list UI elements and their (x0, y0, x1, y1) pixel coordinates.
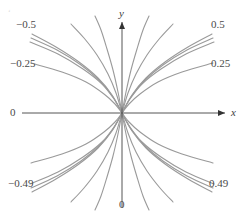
curve (122, 113, 212, 192)
curve (122, 63, 213, 113)
curve (122, 113, 213, 163)
label-top-left: −0.5 (16, 19, 36, 30)
label-top-right: 0.5 (211, 19, 225, 30)
label-mid-left: −0.25 (10, 58, 35, 69)
curve (122, 34, 212, 113)
label-bottom-right: 0.49 (209, 178, 228, 189)
curve (32, 113, 122, 192)
x-axis-arrowhead (218, 110, 225, 116)
y-axis-label: y (119, 8, 124, 19)
y-axis-arrowhead (119, 22, 125, 29)
label-mid-right: 0.25 (211, 58, 230, 69)
plot-canvas (0, 0, 243, 222)
curve (32, 34, 122, 113)
math-plot-figure: ‘ −0.5 0.5 −0.25 0.25 −0.49 0.49 0 0 x y (0, 0, 243, 222)
curve (31, 113, 122, 163)
x-axis-label: x (231, 107, 236, 118)
label-origin-x-axis: 0 (10, 107, 16, 118)
label-bottom-left: −0.49 (8, 178, 33, 189)
curve (31, 63, 122, 113)
label-origin-y-axis: 0 (119, 199, 125, 210)
